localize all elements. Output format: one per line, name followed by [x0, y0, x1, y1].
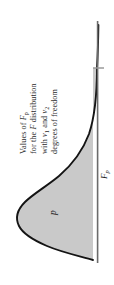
annotation-line-1-prefix: Values of: [19, 120, 28, 154]
annotation-line-2-variable: F: [29, 124, 38, 129]
annotation-line-2: for the F distribution: [29, 36, 39, 154]
annotation-line-3-variable-1: ν: [40, 133, 49, 137]
annotation-line-1: Values of Fp: [19, 36, 29, 154]
annotation-line-3-prefix: with: [40, 137, 49, 154]
figure-annotation: Values of Fp for the F distribution with…: [19, 36, 63, 154]
annotation-line-3-subscript-2: 2: [43, 107, 50, 110]
area-label-p: p: [48, 210, 58, 215]
annotation-line-1-subscript: p: [22, 112, 29, 115]
f-distribution-figure: Values of Fp for the F distribution with…: [0, 0, 114, 285]
annotation-line-2-suffix: distribution: [29, 83, 38, 124]
annotation-line-1-variable: F: [19, 115, 28, 120]
annotation-line-3: with ν1 and ν2: [40, 36, 50, 154]
axis-label-symbol: F: [99, 174, 109, 180]
annotation-line-2-prefix: for the: [29, 130, 38, 154]
annotation-line-3-subscript-1: 1: [43, 130, 50, 133]
annotation-line-3-variable-2: ν: [40, 110, 49, 114]
annotation-line-3-conjunction: and: [40, 114, 49, 130]
annotation-line-4: degrees of freedom: [50, 36, 60, 154]
axis-label-fp: Fp: [99, 170, 109, 179]
